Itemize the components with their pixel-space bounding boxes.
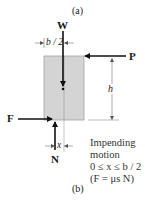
note-line-3: 0 ≤ x ≤ b / 2 [90, 161, 141, 173]
note-line-2: motion [90, 149, 141, 161]
friction-label: F [7, 113, 14, 124]
center-of-mass-dot [62, 88, 65, 91]
half-width-label: b / 2 [46, 38, 63, 48]
height-label: h [108, 84, 113, 94]
offset-label: x [57, 141, 61, 151]
impending-motion-note: Impending motion 0 ≤ x ≤ b / 2 (F = μs N… [90, 137, 141, 185]
note-line-4: (F = μs N) [90, 173, 141, 185]
subfigure-b-label: (b) [72, 184, 84, 194]
subfigure-a-label: (a) [72, 6, 83, 16]
weight-label: W [57, 20, 68, 31]
push-force-label: P [129, 51, 136, 62]
normal-force-label: N [51, 154, 59, 165]
note-line-1: Impending [90, 137, 141, 149]
